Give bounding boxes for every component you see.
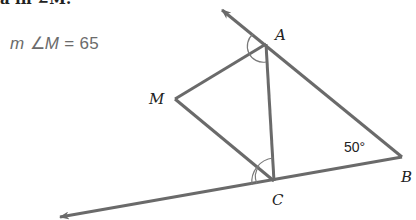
ray-BC bbox=[60, 157, 402, 217]
label-B: B bbox=[401, 170, 412, 185]
label-C: C bbox=[272, 193, 283, 208]
figure-canvas bbox=[0, 0, 416, 220]
segment-MC bbox=[175, 99, 274, 181]
geometry-figure: a in ∠M. m ∠M = 65 A M C B 50° bbox=[0, 0, 416, 220]
ray-BA bbox=[222, 10, 402, 157]
segment-AC bbox=[266, 44, 274, 181]
segment-AM bbox=[175, 44, 266, 99]
label-A: A bbox=[275, 28, 286, 43]
label-M: M bbox=[149, 92, 164, 107]
angle-B-measure: 50° bbox=[344, 140, 365, 154]
